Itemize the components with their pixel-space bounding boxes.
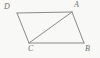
diagonal-ac-line [29, 12, 72, 43]
vertex-label-a: A [74, 1, 79, 9]
vertex-label-b: B [85, 45, 90, 53]
vertex-label-c: C [28, 45, 33, 53]
vertex-label-d: D [4, 3, 10, 11]
edge-da-line [17, 12, 72, 13]
edge-ab-line [72, 12, 84, 43]
edge-cd-line [17, 13, 29, 43]
geometry-figure: D A C B [0, 0, 100, 58]
